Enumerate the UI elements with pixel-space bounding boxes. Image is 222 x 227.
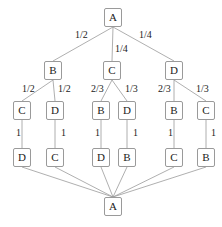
edge-label-bd-c: 1 [61, 128, 66, 138]
edge-label-c-b: 2/3 [91, 84, 104, 94]
node-dbc: C [165, 148, 183, 167]
node-final-a: A [104, 197, 122, 216]
node-bc: C [13, 101, 31, 120]
node-root-a: A [104, 8, 122, 27]
node-dcb: B [197, 148, 215, 167]
edge-label-a-c: 1/4 [115, 44, 128, 54]
edge-label-dc-b: 1 [211, 128, 216, 138]
edge-label-db-c: 1 [168, 128, 173, 138]
node-db: B [165, 101, 183, 120]
node-cd: D [118, 101, 136, 120]
edge-label-cb-d: 1 [95, 128, 100, 138]
edge-label-d-b: 2/3 [158, 84, 171, 94]
node-bdc: C [46, 148, 64, 167]
node-dc: C [197, 101, 215, 120]
edge-label-c-d: 1/3 [125, 84, 138, 94]
edge-label-a-b: 1/2 [75, 30, 88, 40]
edge-label-b-d: 1/2 [58, 84, 71, 94]
edge-label-a-d: 1/4 [139, 30, 152, 40]
edge-label-cd-b: 1 [133, 128, 138, 138]
node-cb: B [92, 101, 110, 120]
edge-label-d-c: 1/3 [196, 84, 209, 94]
node-b: B [44, 61, 62, 80]
node-bd: D [46, 101, 64, 120]
edges-layer [0, 0, 222, 227]
node-d: D [165, 61, 183, 80]
edge-label-b-c: 1/2 [22, 84, 35, 94]
node-bcd: D [13, 148, 31, 167]
node-c: C [103, 61, 121, 80]
node-cbd: D [92, 148, 110, 167]
edge-label-bc-d: 1 [16, 128, 21, 138]
node-cdb: B [118, 148, 136, 167]
